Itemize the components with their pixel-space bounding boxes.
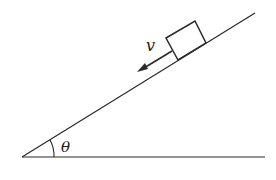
velocity-label: v bbox=[146, 36, 155, 55]
angle-arc bbox=[50, 140, 54, 157]
incline-diagram: v θ bbox=[0, 0, 276, 180]
incline-surface bbox=[22, 13, 255, 157]
angle-label: θ bbox=[61, 138, 70, 156]
block bbox=[166, 21, 206, 60]
